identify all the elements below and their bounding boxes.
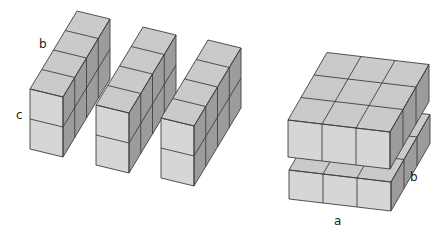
label-a-right: a: [334, 214, 341, 228]
right-cube-slabs: [288, 53, 430, 212]
label-c-left: c: [16, 108, 23, 122]
label-b-left: b: [39, 37, 47, 51]
cube-diagram: b c a b: [0, 0, 442, 232]
label-b-right: b: [410, 170, 418, 184]
left-cube-prisms: [30, 11, 241, 186]
